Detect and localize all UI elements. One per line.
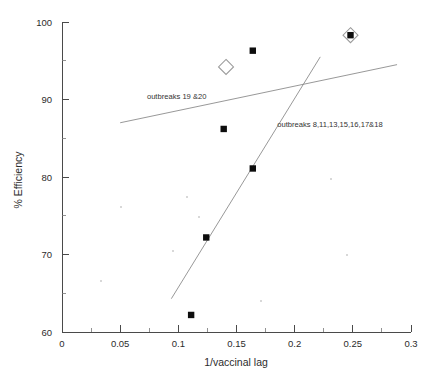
x-axis-title: 1/vaccinal lag: [204, 356, 268, 368]
x-tick-label: 0.25: [344, 338, 363, 349]
x-tick-label: 0.15: [227, 338, 246, 349]
data-point-square: [250, 47, 256, 53]
outbreaks-19-20-fit-label: outbreaks 19 &20: [147, 92, 207, 101]
plot-canvas: 6070809010000.050.10.150.20.250.3 outbre…: [0, 0, 435, 379]
y-tick-label: 80: [41, 172, 52, 183]
x-tick-label: 0.05: [111, 338, 130, 349]
data-point-square: [221, 126, 227, 132]
scatter-plot-figure: 6070809010000.050.10.150.20.250.3 outbre…: [0, 0, 435, 379]
x-tick-label: 0.3: [404, 338, 417, 349]
data-point-square: [250, 165, 256, 171]
x-tick-label: 0: [59, 338, 64, 349]
y-axis-title: % Efficiency: [12, 151, 24, 209]
outbreaks-8-11-13-15-16-17-18-fit-label: outbreaks 8,11,13,15,16,17&18: [277, 120, 382, 129]
x-tick-label: 0.1: [172, 338, 185, 349]
x-tick-label: 0.2: [288, 338, 301, 349]
y-tick-label: 100: [36, 17, 52, 28]
y-tick-label: 70: [41, 249, 52, 260]
data-point-square: [203, 234, 209, 240]
y-tick-label: 90: [41, 94, 52, 105]
data-point-square: [188, 312, 194, 318]
figure-background: [0, 0, 435, 379]
y-tick-label: 60: [41, 327, 52, 338]
data-point-square: [347, 32, 353, 38]
